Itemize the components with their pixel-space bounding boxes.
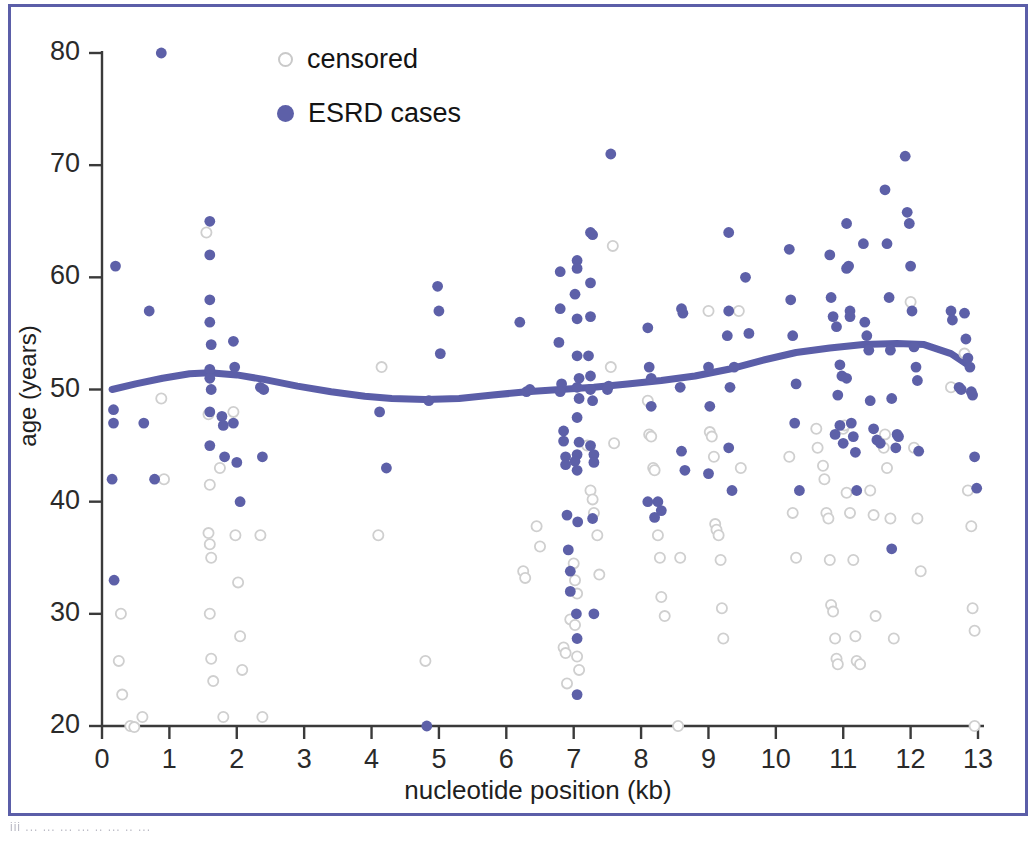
data-point-esrd bbox=[907, 306, 918, 317]
data-point-esrd bbox=[828, 311, 839, 322]
data-point-censored bbox=[561, 648, 571, 658]
data-point-esrd bbox=[704, 401, 715, 412]
x-tick-label: 2 bbox=[215, 744, 259, 775]
data-point-censored bbox=[912, 513, 922, 523]
data-point-esrd bbox=[587, 395, 598, 406]
data-point-censored bbox=[235, 631, 245, 641]
x-tick-label: 5 bbox=[417, 744, 461, 775]
data-point-censored bbox=[532, 521, 542, 531]
data-point-esrd bbox=[572, 633, 583, 644]
data-point-esrd bbox=[574, 437, 585, 448]
data-point-esrd bbox=[830, 429, 841, 440]
data-point-esrd bbox=[204, 440, 215, 451]
x-axis-title: nucleotide position (kb) bbox=[258, 775, 818, 806]
data-point-esrd bbox=[880, 184, 891, 195]
data-point-esrd bbox=[886, 393, 897, 404]
data-point-censored bbox=[201, 227, 211, 237]
data-point-esrd bbox=[946, 306, 957, 317]
x-tick-label: 12 bbox=[889, 744, 933, 775]
data-point-esrd bbox=[723, 442, 734, 453]
data-point-censored bbox=[562, 678, 572, 688]
data-point-esrd bbox=[841, 373, 852, 384]
data-point-esrd bbox=[558, 436, 569, 447]
series-censored bbox=[114, 227, 980, 732]
data-point-esrd bbox=[841, 218, 852, 229]
data-point-censored bbox=[791, 553, 801, 563]
data-point-censored bbox=[703, 306, 713, 316]
data-point-esrd bbox=[572, 382, 583, 393]
x-tick-label: 0 bbox=[80, 744, 124, 775]
data-point-esrd bbox=[257, 451, 268, 462]
data-point-esrd bbox=[848, 431, 859, 442]
data-point-censored bbox=[885, 513, 895, 523]
data-point-esrd bbox=[555, 386, 566, 397]
data-point-esrd bbox=[572, 465, 583, 476]
data-point-censored bbox=[228, 407, 238, 417]
data-point-esrd bbox=[644, 362, 655, 373]
data-point-esrd bbox=[838, 438, 849, 449]
data-point-esrd bbox=[218, 420, 229, 431]
data-point-esrd bbox=[841, 263, 852, 274]
data-point-esrd bbox=[875, 438, 886, 449]
y-tick-label: 50 bbox=[2, 373, 80, 404]
data-point-esrd bbox=[902, 207, 913, 218]
data-point-censored bbox=[257, 712, 267, 722]
data-point-censored bbox=[255, 530, 265, 540]
figure-page: age (years) nucleotide position (kb) cen… bbox=[0, 0, 1036, 842]
data-point-censored bbox=[833, 659, 843, 669]
data-point-censored bbox=[660, 611, 670, 621]
data-point-esrd bbox=[570, 456, 581, 467]
data-point-esrd bbox=[381, 463, 392, 474]
y-tick-label: 40 bbox=[2, 485, 80, 516]
data-point-censored bbox=[570, 575, 580, 585]
data-point-censored bbox=[970, 626, 980, 636]
data-point-esrd bbox=[646, 401, 657, 412]
data-point-esrd bbox=[885, 345, 896, 356]
x-tick-label: 10 bbox=[754, 744, 798, 775]
data-point-esrd bbox=[826, 292, 837, 303]
data-point-censored bbox=[609, 438, 619, 448]
data-point-esrd bbox=[675, 382, 686, 393]
data-point-censored bbox=[137, 712, 147, 722]
y-tick-label: 20 bbox=[2, 709, 80, 740]
data-point-esrd bbox=[904, 218, 915, 229]
data-point-esrd bbox=[435, 348, 446, 359]
data-point-esrd bbox=[258, 384, 269, 395]
data-point-censored bbox=[159, 474, 169, 484]
data-point-esrd bbox=[913, 446, 924, 457]
y-tick-label: 70 bbox=[2, 148, 80, 179]
data-point-censored bbox=[205, 480, 215, 490]
data-point-esrd bbox=[602, 384, 613, 395]
data-point-censored bbox=[850, 631, 860, 641]
data-point-esrd bbox=[149, 474, 160, 485]
data-point-esrd bbox=[729, 362, 740, 373]
data-point-esrd bbox=[605, 149, 616, 160]
data-point-censored bbox=[709, 452, 719, 462]
data-point-esrd bbox=[890, 442, 901, 453]
data-point-esrd bbox=[835, 359, 846, 370]
x-tick-label: 3 bbox=[282, 744, 326, 775]
data-point-esrd bbox=[110, 261, 121, 272]
data-point-censored bbox=[848, 555, 858, 565]
data-point-esrd bbox=[144, 306, 155, 317]
data-point-censored bbox=[608, 241, 618, 251]
data-point-esrd bbox=[861, 330, 872, 341]
legend-item-censored: censored bbox=[278, 44, 418, 75]
data-point-censored bbox=[811, 424, 821, 434]
data-point-censored bbox=[970, 721, 980, 731]
data-point-censored bbox=[968, 603, 978, 613]
data-point-esrd bbox=[204, 294, 215, 305]
data-point-esrd bbox=[909, 342, 920, 353]
data-point-esrd bbox=[206, 384, 217, 395]
data-point-esrd bbox=[572, 350, 583, 361]
data-point-censored bbox=[845, 508, 855, 518]
data-point-esrd bbox=[868, 423, 879, 434]
data-point-esrd bbox=[554, 337, 565, 348]
data-point-esrd bbox=[204, 373, 215, 384]
data-point-esrd bbox=[204, 407, 215, 418]
x-tick-label: 9 bbox=[686, 744, 730, 775]
data-point-censored bbox=[871, 611, 881, 621]
data-point-censored bbox=[206, 654, 216, 664]
data-point-esrd bbox=[965, 362, 976, 373]
data-point-esrd bbox=[886, 543, 897, 554]
